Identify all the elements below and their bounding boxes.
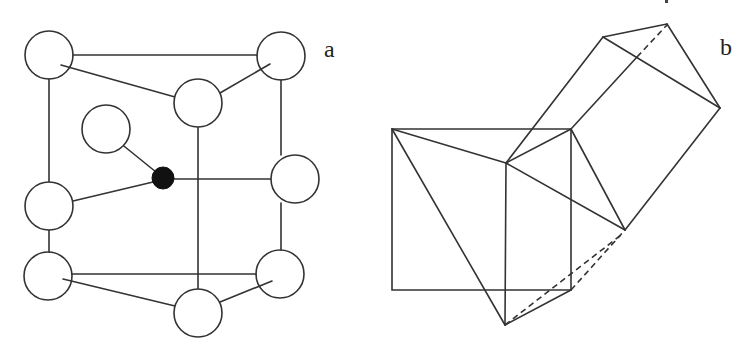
panel-a-atoms [24, 31, 319, 337]
atom-hatched-top [82, 105, 130, 153]
atom-hatched-left [25, 182, 73, 230]
atom-open-bottom-left [24, 252, 72, 300]
edge-h-i [667, 24, 720, 108]
edge-c-d [505, 163, 506, 325]
atom-hatched-right [271, 155, 319, 203]
bond-hatched-left-to-center [73, 182, 153, 201]
atom-open-bottom-right [256, 250, 304, 298]
edge-g-i [603, 37, 720, 108]
edge-c-g [506, 37, 603, 163]
square-outline [392, 129, 571, 290]
edge-top-left-front [61, 65, 175, 97]
edge-b-h-visible [571, 57, 637, 129]
cropped-text-fragment [665, 0, 668, 3]
atom-open-bottom-front [174, 289, 222, 337]
panel-label-a: a [324, 37, 335, 61]
atom-open-top-right [257, 32, 305, 80]
atom-open-top-left [25, 31, 73, 79]
atom-open-top-front [174, 79, 222, 127]
edge-g-h [603, 24, 667, 37]
panel-a-crystal-cell [24, 31, 319, 337]
panel-b-polyhedra [392, 24, 720, 325]
atom-filled-center [152, 167, 174, 189]
edge-d-f [505, 290, 571, 325]
diagram-canvas [0, 0, 750, 351]
edge-d-e-hidden [505, 235, 621, 325]
edge-bottom-left-front [63, 279, 175, 306]
edge-i-e [625, 108, 720, 230]
edge-c-b [506, 129, 571, 163]
panel-label-b: b [720, 35, 732, 59]
